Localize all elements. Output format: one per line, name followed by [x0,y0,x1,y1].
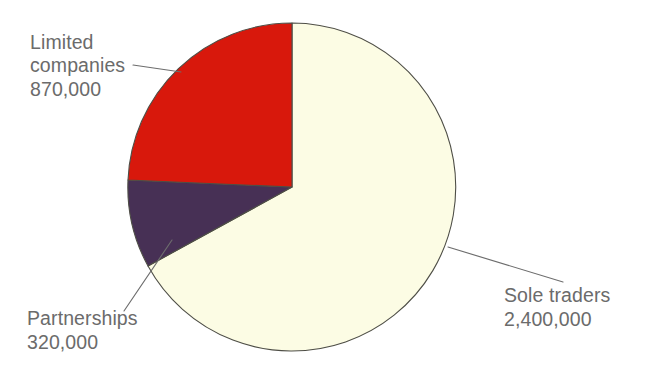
label-sole-traders-line1: Sole traders [504,284,610,306]
pie-chart-figure: Limited companies 870,000 Partnerships 3… [0,0,658,384]
label-partnerships-value: 320,000 [27,331,98,353]
label-limited-companies-value: 870,000 [30,78,101,100]
label-partnerships-line1: Partnerships [27,307,138,329]
label-limited-companies-line1: Limited [30,31,94,53]
label-limited-companies-line2: companies [30,54,125,76]
pie-chart-svg: Limited companies 870,000 Partnerships 3… [0,0,658,384]
label-sole-traders-value: 2,400,000 [504,308,592,330]
